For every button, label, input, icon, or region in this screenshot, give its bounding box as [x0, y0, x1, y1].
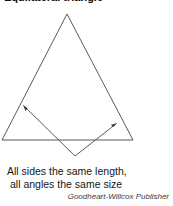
equilateral-triangle-figure: Equilateral triangle All sides the same … [0, 0, 173, 206]
figure-caption: All sides the same length, all angles th… [7, 165, 167, 190]
publisher-credit: Goodheart-Willcox Publisher [68, 192, 169, 201]
caption-line-2: all angles the same size [7, 178, 167, 191]
triangle-diagram [0, 8, 173, 163]
left-side-pointer-arrow [24, 106, 76, 157]
triangle-outline [2, 14, 133, 140]
figure-title: Equilateral triangle [4, 0, 103, 3]
caption-line-1: All sides the same length, [7, 165, 167, 178]
